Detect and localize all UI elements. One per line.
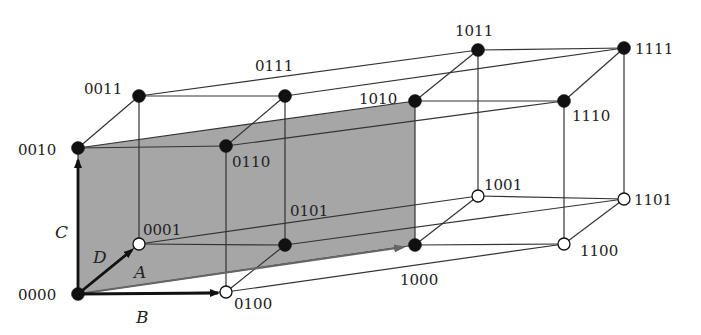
node-label-1100: 1100 — [580, 242, 618, 260]
edge-0011-1011 — [139, 50, 478, 96]
node-1111 — [618, 42, 631, 55]
node-0110 — [220, 140, 233, 153]
node-label-1011: 1011 — [455, 22, 493, 40]
node-0011 — [133, 90, 146, 103]
axis-label-d: D — [92, 247, 107, 267]
edge-1000-1100 — [415, 244, 564, 245]
edge-1011-1111 — [478, 48, 624, 50]
node-label-1001: 1001 — [484, 176, 522, 194]
node-label-1111: 1111 — [635, 40, 673, 58]
axis-label-c: C — [55, 222, 68, 242]
node-label-1101: 1101 — [634, 191, 672, 209]
node-1100 — [558, 238, 570, 250]
axis-label-b: B — [135, 307, 149, 327]
node-0001 — [133, 238, 145, 250]
node-0100 — [220, 286, 232, 298]
node-label-1110: 1110 — [572, 107, 610, 125]
edge-0111-1111 — [285, 48, 624, 96]
node-label-0110: 0110 — [232, 153, 270, 171]
shaded-plane-polygon — [78, 101, 415, 294]
axis-label-a: A — [132, 262, 146, 282]
node-label-0001: 0001 — [143, 221, 181, 239]
hypercube-diagram: ABCD000001000001010100100110001101111000… — [0, 0, 701, 335]
node-label-0010: 0010 — [18, 141, 56, 159]
edge-1001-1101 — [478, 196, 624, 199]
node-label-0011: 0011 — [84, 80, 122, 98]
hypercube-canvas: ABCD000001000001010100100110001101111000… — [0, 0, 701, 335]
node-1110 — [558, 95, 571, 108]
node-0101 — [279, 239, 292, 252]
node-1010 — [409, 95, 422, 108]
node-0111 — [279, 90, 292, 103]
node-label-0100: 0100 — [234, 295, 272, 313]
node-1011 — [472, 44, 485, 57]
edge-1110-1111 — [564, 48, 624, 101]
node-label-1000: 1000 — [400, 271, 438, 289]
node-label-0111: 0111 — [255, 57, 293, 75]
node-1101 — [618, 193, 630, 205]
node-label-0101: 0101 — [290, 202, 328, 220]
node-label-0000: 0000 — [18, 286, 56, 304]
node-label-1010: 1010 — [359, 90, 397, 108]
node-0010 — [72, 142, 85, 155]
node-1001 — [472, 190, 484, 202]
shaded-plane — [78, 101, 415, 294]
node-1000 — [409, 239, 422, 252]
axis-arrow-b — [78, 293, 218, 294]
node-0000 — [72, 288, 85, 301]
